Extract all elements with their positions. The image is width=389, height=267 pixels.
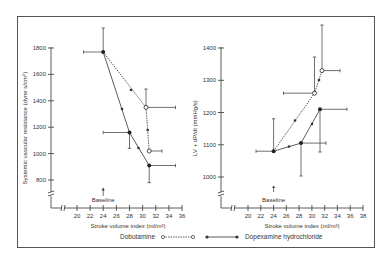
y-tick-label: 1000 (33, 151, 47, 157)
y-tick-label: 1100 (203, 142, 217, 148)
right-x-axis (221, 205, 363, 211)
dashed-line-open-circle-icon (161, 234, 195, 240)
data-point (272, 149, 276, 153)
right-y-axis-title: LV + dP/dt (mmHg/s) (192, 100, 198, 156)
y-tick-label: 1800 (33, 45, 47, 51)
right-y-tick-labels: 1400 1300 1200 1100 1000 (203, 45, 217, 180)
arrow-head-icon (102, 188, 105, 191)
x-tick-label: 34 (334, 213, 341, 219)
chart-canvas: 1800 1600 1400 1200 1000 800 Systemic va… (0, 0, 389, 267)
legend-dopexamine-label: Dopexamine hydrochloride (245, 233, 322, 240)
right-baseline-annotation: Baseline (262, 186, 286, 203)
data-point (144, 105, 148, 109)
arrow-marker-icon (288, 145, 291, 148)
x-tick-label: 24 (100, 213, 107, 219)
data-point (147, 164, 151, 168)
right-y-axis (218, 47, 224, 208)
x-tick-label: 38 (360, 213, 367, 219)
data-point (320, 69, 324, 73)
left-x-tick-labels: 20 22 24 26 28 30 32 34 36 (74, 213, 186, 219)
legend-dobutamine-label: Dobutamine (120, 233, 155, 240)
left-y-axis (48, 47, 54, 208)
y-tick-label: 800 (36, 177, 47, 183)
x-tick-label: 20 (245, 213, 252, 219)
left-error-bars (84, 28, 176, 183)
left-x-axis (51, 205, 182, 211)
x-tick-label: 24 (270, 213, 277, 219)
y-tick-label: 1400 (33, 98, 47, 104)
x-tick-label: 30 (309, 213, 316, 219)
right-x-axis-title: Stroke volume index (ml/m²) (264, 223, 339, 229)
x-tick-label: 34 (166, 213, 173, 219)
right-dopexamine-line (274, 109, 320, 151)
data-point (299, 141, 303, 145)
arrow-marker-icon (294, 119, 297, 122)
arrow-marker-icon (146, 129, 149, 132)
x-tick-label: 26 (283, 213, 290, 219)
x-tick-label: 26 (113, 213, 120, 219)
x-tick-label: 28 (296, 213, 303, 219)
legend-dopexamine-swatch (205, 234, 239, 240)
arrow-head-icon (272, 186, 275, 189)
arrow-marker-icon (311, 123, 314, 126)
y-tick-label: 1600 (33, 71, 47, 77)
x-tick-label: 36 (347, 213, 354, 219)
x-tick-label: 32 (321, 213, 328, 219)
left-y-axis-title: Systemic vascular resistance (dyne s/cm⁵… (22, 72, 28, 185)
arrow-marker-icon (121, 108, 124, 111)
left-dopexamine-line (103, 52, 149, 166)
left-panel: 1800 1600 1400 1200 1000 800 Systemic va… (22, 28, 186, 229)
x-tick-label: 22 (257, 213, 264, 219)
x-tick-label: 36 (179, 213, 186, 219)
x-tick-label: 32 (152, 213, 159, 219)
data-point (147, 149, 151, 153)
left-baseline-annotation: Baseline (92, 188, 116, 203)
data-point (313, 91, 317, 95)
data-point (101, 50, 105, 54)
x-tick-label: 28 (126, 213, 133, 219)
x-tick-label: 20 (74, 213, 81, 219)
left-dobutamine-line (103, 52, 149, 151)
baseline-label: Baseline (92, 197, 116, 203)
right-panel: 1400 1300 1200 1100 1000 LV + dP/dt (mmH… (192, 25, 367, 229)
arrow-marker-icon (318, 79, 321, 82)
y-tick-label: 1300 (203, 77, 217, 83)
solid-line-filled-circle-icon (205, 234, 239, 240)
right-x-tick-labels: 20 22 24 26 28 30 32 34 36 38 (245, 213, 367, 219)
y-tick-label: 1000 (203, 174, 217, 180)
y-tick-label: 1400 (203, 45, 217, 51)
legend-dobutamine-swatch (161, 234, 195, 240)
left-x-axis-title: Stroke volume index (ml/m²) (90, 223, 165, 229)
data-point (318, 107, 322, 111)
data-point (128, 131, 132, 135)
x-tick-label: 22 (87, 213, 94, 219)
y-tick-label: 1200 (33, 124, 47, 130)
arrow-marker-icon (130, 89, 133, 92)
right-markers (272, 69, 324, 154)
right-error-bars (256, 25, 347, 176)
arrow-marker-icon (137, 147, 140, 150)
y-tick-label: 1200 (203, 110, 217, 116)
left-y-tick-labels: 1800 1600 1400 1200 1000 800 (33, 45, 47, 183)
legend: Dobutamine Dopexamine hydrochloride (120, 233, 322, 240)
baseline-label: Baseline (262, 197, 286, 203)
x-tick-label: 30 (139, 213, 146, 219)
